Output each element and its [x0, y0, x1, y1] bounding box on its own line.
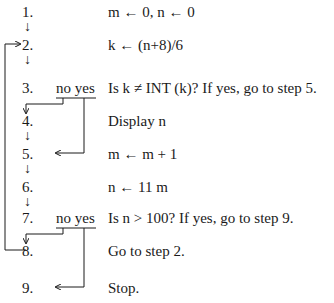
step-5-text: m ← m + 1 [108, 146, 177, 162]
step-1-text: m ← 0, n ← 0 [108, 4, 195, 20]
step7-yes-branch [56, 228, 84, 287]
step-7-branch-labels: no yes [56, 210, 95, 226]
step-7-text: Is n > 100? If yes, go to step 9. [108, 210, 294, 226]
step3-yes-branch [56, 98, 84, 153]
step-3-text: Is k ≠ INT (k)? If yes, go to step 5. [108, 80, 317, 96]
arrow-down-icon: ↓ [24, 129, 31, 143]
step-9-text: Stop. [108, 280, 139, 296]
step-6-text: n ← 11 m [108, 179, 168, 195]
step-8-text: Go to step 2. [108, 243, 185, 259]
step-3-number: 3. [22, 80, 33, 96]
arrow-down-icon: ↓ [24, 195, 31, 209]
step-2-number: 2. [22, 37, 33, 53]
step3-no-branch [26, 98, 63, 113]
step-8-number: 8. [22, 243, 33, 259]
arrow-down-icon: ↓ [24, 162, 31, 176]
step-9-number: 9. [22, 280, 33, 296]
arrow-down-icon: ↓ [24, 53, 31, 67]
step-4-text: Display n [108, 113, 166, 129]
step7-no-branch [26, 228, 63, 243]
step-7-number: 7. [22, 210, 33, 226]
step-3-branch-labels: no yes [56, 80, 95, 96]
arrow-down-icon: ↓ [24, 20, 31, 34]
step-2-text: k ← (n+8)/6 [108, 37, 183, 53]
step-5-number: 5. [22, 146, 33, 162]
step-6-number: 6. [22, 179, 33, 195]
step-4-number: 4. [22, 113, 33, 129]
step-1-number: 1. [22, 4, 33, 20]
